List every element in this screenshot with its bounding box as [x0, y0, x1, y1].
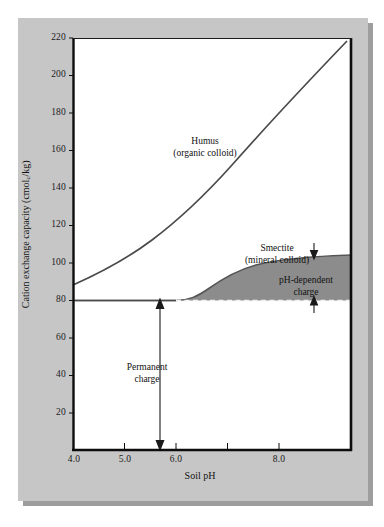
y-tick-label-20: 20 [36, 407, 66, 417]
humus-annotation: Humus (organic colloid) [150, 136, 260, 159]
smectite-annotation-line2: (mineral colloid) [222, 255, 332, 267]
smectite-annotation-line1: Smectite [222, 243, 332, 255]
ph-dependent-annotation-line2: charge [258, 287, 354, 299]
y-tick-label-80: 80 [36, 294, 66, 304]
permanent-charge-annotation: Permanent charge [92, 362, 202, 385]
y-tick-label-200: 200 [36, 69, 66, 79]
y-tick-label-100: 100 [36, 257, 66, 267]
y-tick-label-180: 180 [36, 107, 66, 117]
permanent-annotation-line1: Permanent [92, 362, 202, 374]
ph-dependent-charge-annotation: pH-dependent charge [258, 275, 354, 298]
y-tick-label-220: 220 [36, 32, 66, 42]
x-tick-label-4: 4.0 [60, 454, 88, 464]
y-axis-title: Cation exchange capacity (cmolc/kg) [20, 144, 33, 324]
x-tick-label-6: 6.0 [162, 454, 190, 464]
y-tick-label-120: 120 [36, 219, 66, 229]
y-tick-label-60: 60 [36, 332, 66, 342]
x-tick-label-5: 5.0 [111, 454, 139, 464]
smectite-annotation: Smectite (mineral colloid) [222, 243, 332, 266]
ph-dependent-annotation-line1: pH-dependent [258, 275, 354, 287]
y-axis-title-suffix: /kg) [20, 160, 31, 176]
y-tick-label-40: 40 [36, 369, 66, 379]
y-tick-label-140: 140 [36, 182, 66, 192]
y-axis-title-prefix: Cation exchange capacity (cmol [20, 180, 31, 309]
x-axis-title: Soil pH [140, 470, 260, 481]
y-axis-title-subscript: c [24, 176, 32, 179]
x-tick-label-8: 8.0 [265, 454, 293, 464]
permanent-annotation-line2: charge [92, 374, 202, 386]
humus-annotation-line1: Humus [150, 136, 260, 148]
y-tick-label-160: 160 [36, 144, 66, 154]
figure-root: 220 200 180 160 140 120 100 80 60 40 20 … [0, 0, 384, 527]
humus-annotation-line2: (organic colloid) [150, 148, 260, 160]
